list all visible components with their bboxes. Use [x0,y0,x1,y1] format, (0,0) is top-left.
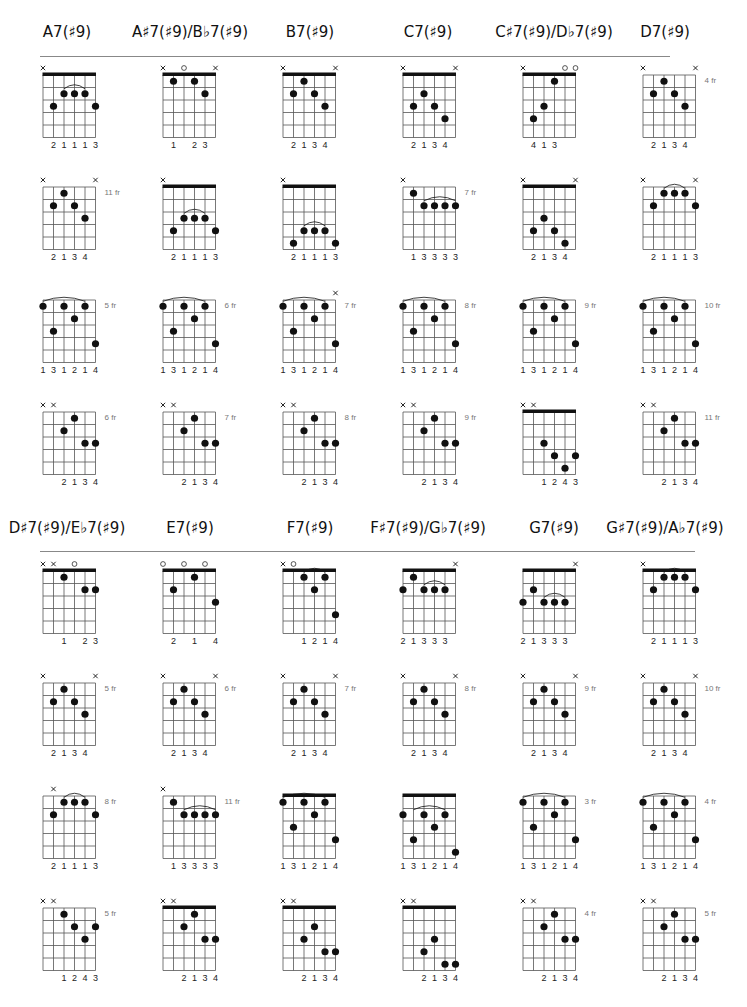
finger-number: 4 [333,636,338,646]
finger-dot-icon [441,303,448,310]
finger-number: 2 [72,973,77,983]
finger-dot-icon [420,90,427,97]
finger-dot-icon [519,303,526,310]
finger-number: 3 [432,140,437,150]
finger-dot-icon [551,315,558,322]
finger-number: 1 [280,861,285,871]
finger-number: 4 [693,477,698,487]
finger-number: 2 [661,477,666,487]
muted-string-icon [161,178,165,182]
finger-number: 3 [531,365,536,375]
finger-dot-icon [311,315,318,322]
finger-dot-icon [311,698,318,705]
muted-string-icon [161,66,165,70]
finger-dot-icon [180,215,187,222]
finger-number: 2 [312,365,317,375]
finger-dot-icon [71,202,78,209]
finger-number: 3 [552,252,557,262]
finger-dot-icon [191,574,198,581]
finger-dot-icon [311,811,318,818]
finger-dot-icon [81,90,88,97]
finger-number: 1 [672,973,677,983]
muted-string-icon [161,674,165,678]
finger-number: 2 [651,140,656,150]
finger-number: 2 [651,748,656,758]
finger-number: 2 [531,252,536,262]
finger-dot-icon [671,698,678,705]
barre-arc-icon [414,806,446,810]
finger-dot-icon [60,427,67,434]
finger-dot-icon [420,586,427,593]
finger-dot-icon [561,240,568,247]
finger-number: 1 [421,861,426,871]
chord-diagram: 5 fr1243 [31,894,141,994]
muted-string-icon [333,291,337,295]
finger-dot-icon [441,711,448,718]
muted-string-icon [41,66,45,70]
chord-title: D7(♯9) [640,23,690,41]
finger-dot-icon [431,103,438,110]
finger-number: 2 [301,477,306,487]
finger-dot-icon [540,440,547,447]
finger-dot-icon [681,936,688,943]
nut-bar [523,410,577,414]
finger-dot-icon [300,303,307,310]
finger-dot-icon [279,799,286,806]
muted-string-icon [531,403,535,407]
finger-number: 3 [171,365,176,375]
finger-number: 4 [693,861,698,871]
finger-dot-icon [692,202,699,209]
nut-bar [163,73,217,77]
finger-number: 1 [541,140,546,150]
muted-string-icon [291,403,295,407]
finger-number: 1 [661,861,666,871]
finger-dot-icon [399,303,406,310]
finger-number: 1 [192,477,197,487]
finger-dot-icon [431,202,438,209]
chord-diagram: 7 fr131214 [271,286,381,386]
finger-dot-icon [681,103,688,110]
chord-diagram: 2134 [271,894,381,994]
chord-diagram: 10 fr2134 [631,669,741,769]
chord-diagram: 2134 [391,894,501,994]
muted-string-icon [93,674,97,678]
nut-bar [283,906,337,910]
chord-diagram: 21113 [631,173,741,273]
finger-dot-icon [572,936,579,943]
finger-number: 1 [301,140,306,150]
finger-number: 1 [442,861,447,871]
finger-dot-icon [410,103,417,110]
finger-number: 2 [171,252,176,262]
finger-dot-icon [681,190,688,197]
finger-number: 1 [61,861,66,871]
finger-dot-icon [81,303,88,310]
fretboard-grid [151,557,261,657]
finger-dot-icon [290,240,297,247]
muted-string-icon [453,674,457,678]
finger-number: 2 [312,636,317,646]
fret-position-label: 10 fr [705,684,721,693]
finger-dot-icon [410,328,417,335]
finger-number: 3 [651,861,656,871]
finger-number: 2 [651,636,656,646]
finger-dot-icon [572,452,579,459]
finger-dot-icon [561,303,568,310]
fret-position-label: 7 fr [225,413,237,422]
finger-dot-icon [60,911,67,918]
finger-number: 4 [693,365,698,375]
finger-dot-icon [452,849,459,856]
finger-dot-icon [92,440,99,447]
finger-dot-icon [410,574,417,581]
finger-number: 1 [181,748,186,758]
finger-dot-icon [660,190,667,197]
finger-number: 4 [333,477,338,487]
muted-string-icon [401,674,405,678]
finger-number: 2 [51,140,56,150]
fret-position-label: 11 fr [105,188,120,197]
finger-number: 2 [432,365,437,375]
finger-number: 4 [82,973,87,983]
finger-dot-icon [671,574,678,581]
finger-number: 2 [421,477,426,487]
finger-number: 3 [192,861,197,871]
finger-number: 3 [202,140,207,150]
